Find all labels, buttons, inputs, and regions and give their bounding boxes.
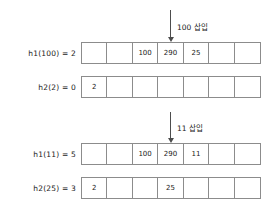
bucket-cell (107, 77, 132, 97)
bucket-cell: 100 (133, 144, 158, 164)
insert-label-11: 11 삽입 (177, 122, 203, 133)
bucket-cell: 11 (184, 144, 209, 164)
bucket-cell (133, 178, 158, 198)
diagram-canvas: 100 삽입 h1(100) = 2 100 290 25 h2(2) = 0 … (0, 0, 277, 208)
bucket-row-h1-100: 100 290 25 (81, 42, 261, 64)
bucket-cell (107, 43, 132, 63)
bucket-cell: 290 (158, 43, 183, 63)
bucket-cell: 25 (158, 178, 183, 198)
insert-annotation-11: 11 삽입 (170, 112, 260, 144)
bucket-cell: 25 (184, 43, 209, 63)
bucket-cell (184, 77, 209, 97)
row-label-h1-100: h1(100) = 2 (0, 49, 76, 58)
bucket-cell: 2 (82, 77, 107, 97)
bucket-cell (107, 178, 132, 198)
bucket-cell (209, 178, 234, 198)
bucket-cell (107, 144, 132, 164)
bucket-cell (235, 144, 260, 164)
bucket-cell (209, 77, 234, 97)
row-label-h1-11: h1(11) = 5 (0, 150, 76, 159)
bucket-row-h2-25: 2 25 (81, 177, 261, 199)
bucket-cell (235, 43, 260, 63)
bucket-cell (209, 43, 234, 63)
insert-annotation-100: 100 삽입 (170, 10, 260, 42)
bucket-cell (133, 77, 158, 97)
bucket-cell (184, 178, 209, 198)
bucket-row-h2-2: 2 (81, 76, 261, 98)
bucket-cell (82, 43, 107, 63)
bucket-cell: 2 (82, 178, 107, 198)
row-label-h2-25: h2(25) = 3 (0, 184, 76, 193)
bucket-cell (209, 144, 234, 164)
insert-label-100: 100 삽입 (177, 21, 208, 32)
bucket-cell (235, 77, 260, 97)
bucket-cell: 290 (158, 144, 183, 164)
bucket-cell: 100 (133, 43, 158, 63)
bucket-row-h1-11: 100 290 11 (81, 143, 261, 165)
arrow-shaft-icon (170, 10, 171, 37)
bucket-cell (158, 77, 183, 97)
bucket-cell (82, 144, 107, 164)
row-label-h2-2: h2(2) = 0 (0, 83, 76, 92)
bucket-cell (235, 178, 260, 198)
arrow-shaft-icon (170, 112, 171, 138)
